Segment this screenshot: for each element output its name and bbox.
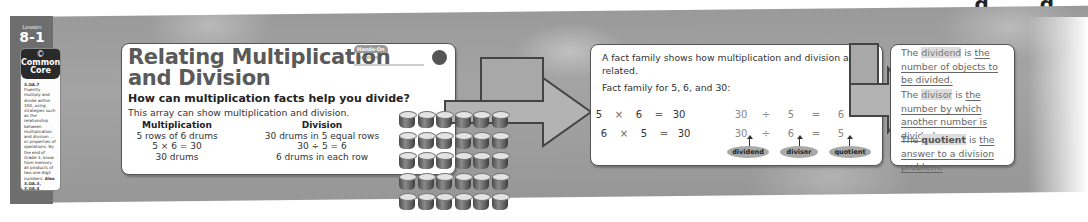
definition-dividend: The dividend is the number of objects to…	[901, 46, 1009, 87]
hands-on-badge: Hands-On	[354, 45, 388, 53]
division-line: 30 drums in 5 equal rows	[232, 131, 412, 142]
multiplication-column: Multiplication 5 rows of 6 drums 5 × 6 =…	[122, 120, 232, 162]
drum-icon	[455, 193, 471, 211]
drum-icon	[418, 132, 434, 150]
hands-on-material: counters	[354, 54, 424, 66]
drum-icon	[455, 152, 471, 170]
multiplication-fact: 6 × 5 = 30	[594, 128, 694, 139]
lesson-number: 8-1	[14, 29, 50, 45]
drum-array	[399, 111, 511, 217]
drum-icon	[455, 111, 471, 129]
definition-quotient: The quotient is the answer to a division…	[901, 133, 1009, 174]
drum-icon	[436, 173, 452, 191]
drum-icon	[492, 111, 508, 129]
drum-icon	[492, 132, 508, 150]
drum-icon	[436, 132, 452, 150]
drum-icon	[436, 152, 452, 170]
lesson-title: Relating Multiplication and Division	[128, 47, 390, 89]
multiplication-fact: 5 × 6 = 30	[589, 109, 689, 120]
title-line-2: and Division	[128, 66, 270, 90]
also-label: Also	[45, 176, 55, 181]
division-fact: 30 ÷ 5 = 6	[727, 109, 855, 120]
division-line: 6 drums in each row	[232, 152, 412, 163]
drum-icon	[492, 193, 508, 211]
common-core-header: © Common Core	[21, 49, 60, 79]
drum-icon	[473, 111, 489, 129]
vocabulary-card: The dividend is the number of objects to…	[890, 44, 1015, 166]
drum-icon	[399, 132, 415, 150]
also-codes: 3.OA.3, 3.OA.4	[24, 181, 41, 191]
division-column: Division 30 drums in 5 equal rows 30 ÷ 5…	[232, 120, 412, 162]
dividend-label: dividend	[727, 146, 769, 158]
essential-question: How can multiplication facts help you di…	[128, 92, 410, 105]
drum-icon	[473, 173, 489, 191]
drum-icon	[492, 152, 508, 170]
multiplication-line: 5 × 6 = 30	[122, 141, 232, 152]
drum-icon	[436, 111, 452, 129]
divisor-label: divisor	[780, 146, 818, 158]
fact-family-card: A fact family shows how multiplication a…	[590, 44, 883, 166]
vocab-term: divisor	[921, 89, 952, 100]
drum-icon	[473, 132, 489, 150]
drum-icon	[418, 193, 434, 211]
drum-icon	[492, 173, 508, 191]
drum-icon	[399, 173, 415, 191]
drum-icon	[455, 132, 471, 150]
quotient-label: quotient	[829, 146, 871, 158]
multiplication-line: 5 rows of 6 drums	[122, 131, 232, 142]
common-core-card: © Common Core 3.OA.7 Fluently multiply a…	[20, 48, 61, 191]
drum-icon	[436, 193, 452, 211]
drum-icon	[399, 193, 415, 211]
drum-icon	[399, 152, 415, 170]
fact-family-intro: A fact family shows how multiplication a…	[602, 51, 872, 77]
vocab-term: quotient	[921, 134, 966, 145]
drum-icon	[455, 173, 471, 191]
multiplication-line: 30 drums	[122, 152, 232, 163]
drum-icon	[473, 152, 489, 170]
array-intro: This array can show multiplication and d…	[128, 107, 349, 118]
common-core-title-2: Core	[21, 67, 60, 75]
drum-icon	[418, 111, 434, 129]
drum-icon	[399, 111, 415, 129]
standard-text: Fluently multiply and divide within 100,…	[24, 87, 56, 180]
division-heading: Division	[232, 120, 412, 131]
vocab-term: dividend	[921, 47, 961, 58]
multiplication-heading: Multiplication	[122, 120, 232, 131]
drum-icon	[473, 193, 489, 211]
standard-description: 3.OA.7 Fluently multiply and divide with…	[21, 79, 60, 191]
fact-family-label: Fact family for 5, 6, and 30:	[602, 82, 730, 93]
drum-icon	[418, 173, 434, 191]
background-fade	[1028, 17, 1088, 207]
division-line: 30 ÷ 5 = 6	[232, 141, 412, 152]
drum-icon	[418, 152, 434, 170]
